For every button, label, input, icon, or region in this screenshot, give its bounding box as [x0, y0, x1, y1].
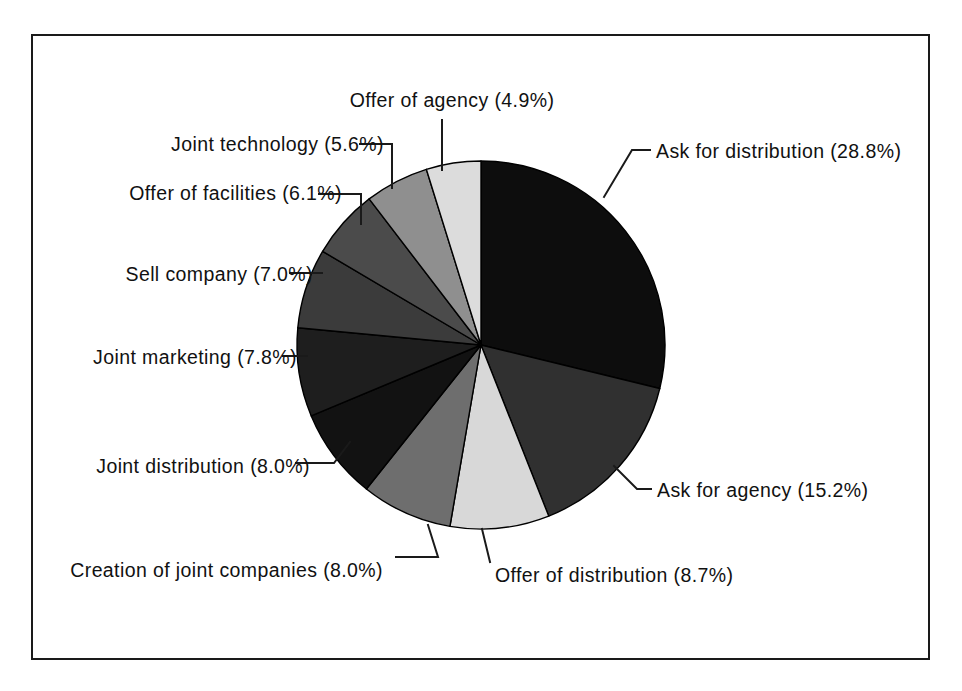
pie-slice-label: Ask for agency (15.2%) [657, 479, 868, 501]
pie-slice-label: Offer of distribution (8.7%) [495, 564, 733, 586]
leader-line [482, 529, 490, 562]
pie-slice-label: Joint distribution (8.0%) [96, 455, 310, 477]
pie-slice-label: Creation of joint companies (8.0%) [70, 559, 383, 581]
pie-slice-label: Joint technology (5.6%) [171, 133, 384, 155]
pie-slice-label: Joint marketing (7.8%) [93, 346, 297, 368]
pie-slice-label: Offer of agency (4.9%) [350, 89, 555, 111]
leader-line [614, 466, 651, 489]
pie-slice-label: Offer of facilities (6.1%) [129, 182, 342, 204]
leader-line [604, 150, 650, 197]
leader-line [396, 525, 438, 557]
pie-chart: Ask for distribution (28.8%)Ask for agen… [0, 0, 962, 691]
figure-container: Ask for distribution (28.8%)Ask for agen… [0, 0, 962, 691]
pie-slice-label: Sell company (7.0%) [125, 263, 313, 285]
pie-slice-label: Ask for distribution (28.8%) [656, 140, 901, 162]
pie-slices-group [297, 161, 665, 529]
